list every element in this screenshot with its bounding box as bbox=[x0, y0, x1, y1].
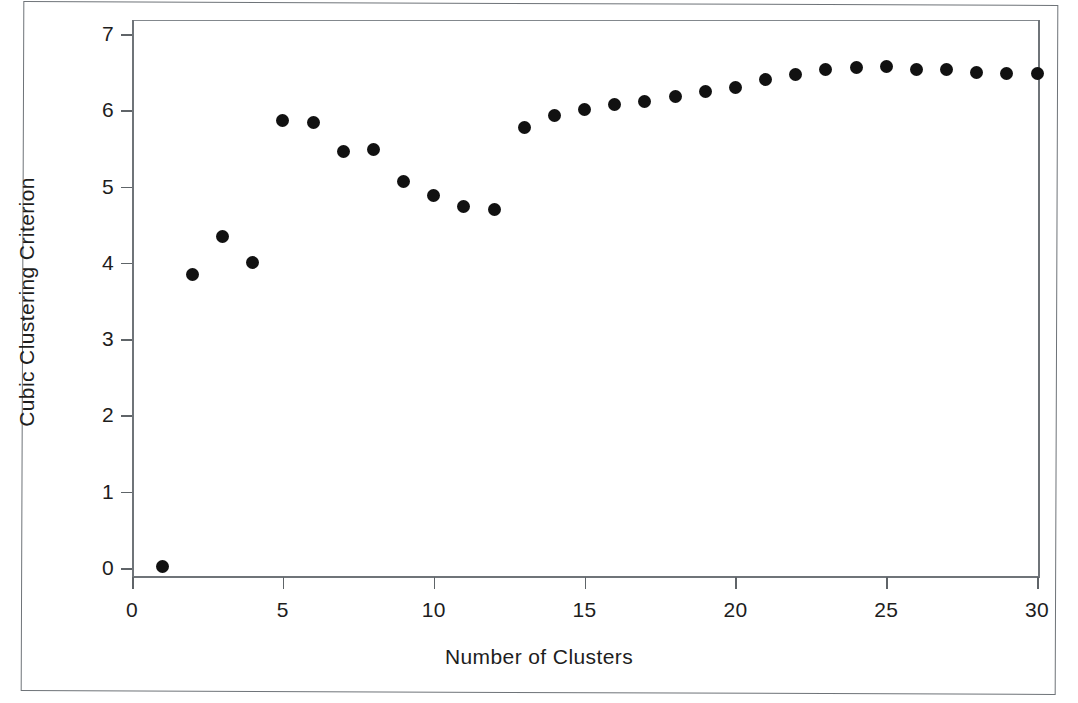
y-tick-mark bbox=[121, 263, 132, 265]
data-point bbox=[276, 114, 289, 127]
data-point bbox=[669, 90, 682, 103]
data-point bbox=[367, 143, 380, 156]
y-tick-mark bbox=[121, 415, 132, 417]
y-tick-label: 2 bbox=[102, 403, 114, 427]
data-point bbox=[246, 256, 259, 269]
data-point bbox=[216, 230, 229, 243]
data-point bbox=[880, 60, 893, 73]
x-axis-title: Number of Clusters bbox=[0, 645, 1078, 669]
data-point bbox=[427, 189, 440, 202]
data-point bbox=[337, 145, 350, 158]
plot-area: 01234567 051015202530 bbox=[132, 20, 1040, 578]
y-tick-label: 4 bbox=[102, 251, 114, 275]
plot-right-border bbox=[1038, 20, 1040, 578]
data-point bbox=[608, 98, 621, 111]
y-tick-mark bbox=[121, 339, 132, 341]
y-axis-line bbox=[132, 20, 134, 578]
data-point bbox=[518, 121, 531, 134]
data-point bbox=[970, 66, 983, 79]
y-tick-mark bbox=[121, 492, 132, 494]
data-point bbox=[156, 560, 169, 573]
data-point bbox=[819, 63, 832, 76]
data-point bbox=[729, 81, 742, 94]
data-point bbox=[1031, 67, 1044, 80]
x-tick-label: 10 bbox=[422, 598, 446, 622]
data-point bbox=[397, 175, 410, 188]
y-tick-mark bbox=[121, 110, 132, 112]
x-tick-mark bbox=[886, 577, 888, 589]
data-point bbox=[488, 203, 501, 216]
data-point bbox=[578, 103, 591, 116]
y-tick-mark bbox=[121, 568, 132, 570]
y-tick-label: 1 bbox=[102, 480, 114, 504]
x-tick-label: 25 bbox=[874, 598, 898, 622]
data-point bbox=[759, 73, 772, 86]
x-tick-mark bbox=[585, 577, 587, 589]
data-point bbox=[850, 61, 863, 74]
data-point bbox=[789, 68, 802, 81]
data-point bbox=[457, 200, 470, 213]
data-point bbox=[1000, 67, 1013, 80]
x-tick-label: 20 bbox=[723, 598, 747, 622]
data-point bbox=[548, 109, 561, 122]
x-tick-label: 30 bbox=[1025, 598, 1049, 622]
y-tick-label: 0 bbox=[102, 556, 114, 580]
y-tick-label: 5 bbox=[102, 175, 114, 199]
data-point bbox=[307, 116, 320, 129]
y-axis-title: Cubic Clustering Criterion bbox=[15, 67, 39, 537]
data-point bbox=[638, 95, 651, 108]
data-point bbox=[910, 63, 923, 76]
x-tick-mark bbox=[132, 577, 134, 589]
x-tick-mark bbox=[434, 577, 436, 589]
y-tick-label: 7 bbox=[102, 22, 114, 46]
data-point bbox=[940, 63, 953, 76]
plot-top-border bbox=[132, 20, 1040, 21]
y-tick-mark bbox=[121, 34, 132, 36]
x-tick-label: 15 bbox=[573, 598, 597, 622]
y-tick-mark bbox=[121, 187, 132, 189]
chart-figure: 01234567 051015202530 Number of Clusters… bbox=[0, 0, 1078, 703]
x-tick-mark bbox=[283, 577, 285, 589]
y-tick-label: 3 bbox=[102, 327, 114, 351]
x-tick-mark bbox=[735, 577, 737, 589]
data-point bbox=[699, 85, 712, 98]
x-tick-label: 5 bbox=[277, 598, 289, 622]
x-tick-mark bbox=[1037, 577, 1039, 589]
y-tick-label: 6 bbox=[102, 98, 114, 122]
data-point bbox=[186, 268, 199, 281]
x-tick-label: 0 bbox=[126, 598, 138, 622]
